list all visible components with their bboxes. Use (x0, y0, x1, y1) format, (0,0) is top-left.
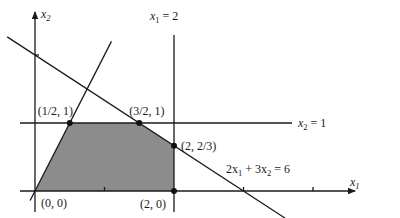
vertex-point (67, 120, 73, 126)
label-x2-eq-1: x2 = 1 (297, 116, 326, 132)
label-x1-eq-2: x1 = 2 (149, 9, 178, 25)
vertex-point (171, 188, 177, 194)
feasible-region (35, 123, 174, 191)
vertex-label: (2, 0) (140, 197, 166, 211)
vertex-label: (2, 2/3) (181, 139, 216, 153)
vertex-label: (1/2, 1) (38, 104, 73, 118)
vertex-label: (3/2, 1) (129, 104, 164, 118)
x2-axis-label: x2 (40, 7, 51, 23)
label-2x1-3x2-eq-6: 2x1 + 3x2 = 6 (226, 162, 290, 178)
lp-diagram: x1 x2 x1 = 2 x2 = 1 2x1 + 3x2 = 6 (0, 0)… (0, 0, 400, 218)
vertex-point (171, 143, 177, 149)
vertex-point (136, 120, 142, 126)
x1-axis-label: x1 (349, 175, 360, 191)
vertex-label: (0, 0) (41, 196, 67, 210)
